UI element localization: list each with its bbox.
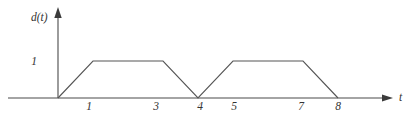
x-tick-label-5: 5 bbox=[231, 101, 237, 113]
x-tick-label-7: 7 bbox=[298, 101, 304, 113]
plot-canvas bbox=[0, 0, 417, 118]
data-series-line bbox=[58, 61, 338, 98]
x-axis-label: t bbox=[399, 92, 402, 104]
y-axis-label: d(t) bbox=[31, 12, 48, 24]
x-axis-arrow-icon bbox=[382, 94, 393, 101]
x-tick-label-8: 8 bbox=[335, 101, 341, 113]
y-axis-arrow-icon bbox=[54, 7, 61, 18]
x-tick-label-3: 3 bbox=[153, 101, 159, 113]
x-tick-label-1: 1 bbox=[86, 101, 92, 113]
y-tick-label-1: 1 bbox=[31, 56, 37, 68]
chart-figure: d(t) 1 t 1 3 4 5 7 8 bbox=[0, 0, 417, 118]
x-tick-label-4: 4 bbox=[197, 101, 203, 113]
